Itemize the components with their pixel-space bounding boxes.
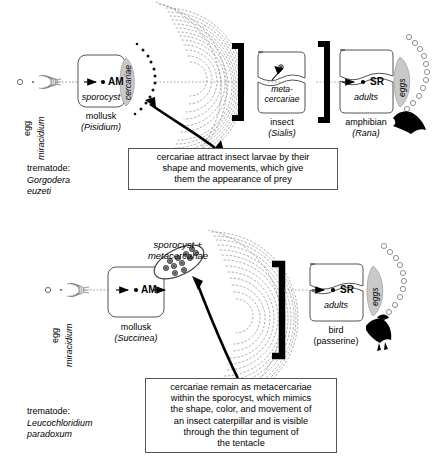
marker-am-top: AM bbox=[108, 76, 124, 87]
host-taxon-mollusk-bottom: (Succinea) bbox=[114, 333, 157, 343]
trematode-prefix-bottom: trematode: bbox=[27, 406, 70, 416]
stage-label-sporocyst-top: sporocyst bbox=[82, 92, 121, 102]
sr-dot-icon bbox=[331, 288, 335, 292]
host-name-amphibian-top: amphibian bbox=[345, 117, 387, 127]
stage-label-egg-bottom: egg bbox=[50, 328, 60, 343]
stage-label-miracidium-bottom: miracidium bbox=[64, 323, 74, 367]
stage-label-egg-top: egg bbox=[22, 121, 32, 136]
trematode-species-top: euzeti bbox=[27, 186, 51, 196]
am-dot-icon bbox=[101, 80, 105, 84]
host-name-mollusk-bottom: mollusk bbox=[121, 322, 152, 332]
trematode-prefix-top: trematode: bbox=[27, 163, 70, 173]
caption-line: the tentacle bbox=[150, 438, 332, 449]
stage-label-eggs-bottom: eggs bbox=[371, 288, 381, 306]
caption-line: an insect caterpillar and is visible bbox=[150, 416, 332, 427]
host-taxon-bird-bottom: (passerine) bbox=[313, 336, 358, 346]
egg-icon bbox=[45, 287, 50, 292]
host-taxon-mollusk-top: (Pisidium) bbox=[81, 122, 121, 132]
host-name-insect-top: insect bbox=[270, 117, 294, 127]
life-cycle-panel-top: egg miracidium AM sporocyst mollusk (Pis… bbox=[0, 0, 436, 230]
stage-label-sporocyst-plus-line2: metacercariae bbox=[148, 251, 208, 262]
miracidium-icon bbox=[60, 283, 89, 296]
trematode-genus-bottom: Leucochloridium bbox=[27, 418, 93, 428]
caption-pointer-arrowhead-bottom bbox=[192, 276, 203, 290]
stage-label-metacercariae-line2-top: cercariae bbox=[265, 95, 300, 105]
marker-sr-top: SR bbox=[370, 76, 384, 87]
host-taxon-insect-top: (Sialis) bbox=[268, 128, 296, 138]
caption-line: cercariae attract insect larvae by their bbox=[133, 152, 333, 163]
life-cycle-panel-bottom: sporocyst + metacercariae egg miracidium… bbox=[0, 230, 436, 461]
stage-label-miracidium-top: miracidium bbox=[36, 116, 46, 160]
sr-dot-icon bbox=[361, 80, 365, 84]
stage-label-cercariae-top: cercariae bbox=[124, 65, 134, 100]
metacercaria-core-icon bbox=[280, 66, 282, 68]
bird-silhouette-icon bbox=[366, 315, 391, 351]
caption-box-top: cercariae attract insect larvae by their… bbox=[128, 148, 338, 190]
am-dot-icon bbox=[134, 288, 138, 292]
caption-line: shape and movements, which give bbox=[133, 163, 333, 174]
predation-bracket-2 bbox=[318, 44, 327, 120]
caption-box-bottom: cercariae remain as metacercariae within… bbox=[145, 378, 337, 453]
caption-line: cercariae remain as metacercariae bbox=[150, 382, 332, 393]
egg-chain-icon bbox=[380, 243, 406, 320]
marker-am-bottom: AM bbox=[141, 284, 157, 295]
host-taxon-amphibian-top: (Rana) bbox=[352, 128, 380, 138]
host-name-bird-bottom: bird bbox=[328, 325, 343, 335]
trematode-genus-top: Gorgodera bbox=[27, 175, 70, 185]
miracidium-icon bbox=[32, 75, 61, 88]
host-name-mollusk-top: mollusk bbox=[86, 111, 117, 121]
frog-silhouette-icon bbox=[393, 111, 426, 134]
stage-label-eggs-top: eggs bbox=[398, 79, 408, 97]
caption-line: the shape, color, and movement of bbox=[150, 404, 332, 415]
egg-icon bbox=[17, 79, 22, 84]
marker-sr-bottom: SR bbox=[340, 284, 354, 295]
top-panel-graphics bbox=[0, 0, 436, 230]
caption-pointer-top bbox=[150, 104, 215, 148]
caption-line: them the appearance of prey bbox=[133, 174, 333, 185]
stage-label-adults-top: adults bbox=[354, 92, 378, 102]
stage-label-adults-bottom: adults bbox=[324, 300, 348, 310]
caption-line: through the thin tegument of bbox=[150, 427, 332, 438]
host-box-bird bbox=[310, 264, 363, 321]
caption-line: within the sporocyst, which mimics bbox=[150, 393, 332, 404]
trematode-species-bottom: paradoxum bbox=[27, 429, 72, 439]
